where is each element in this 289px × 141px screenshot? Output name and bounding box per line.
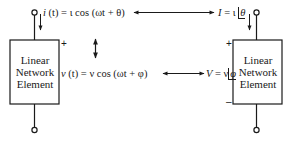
left-top-terminal-icon [32,10,37,15]
phasor-current-magnitude: = ι [222,7,239,18]
phasor-voltage-magnitude: = ν [212,68,228,79]
right-bottom-terminal-icon [254,127,259,132]
phasor-voltage-equation: V = νφ [206,68,236,80]
right-label-line1: Linear [233,54,283,66]
time-domain-voltage-equation: v (t) = ν cos (ωt + φ) [61,68,147,80]
left-plus-sign: + [61,39,67,49]
phasor-current-equation: I = ι θ [218,7,245,19]
phasor-voltage-angle: φ [228,68,236,80]
right-element-label: Linear Network Element [233,54,283,90]
right-minus-sign: – [226,97,232,107]
left-element-label: Linear Network Element [10,54,60,90]
current-expression: (t) = ι cos (ωt + θ) [46,7,125,18]
right-plus-sign: + [226,39,232,49]
right-label-line2: Network [233,66,283,78]
left-label-line3: Element [10,78,60,90]
voltage-expression: (t) = ν cos (ωt + φ) [66,68,148,79]
phasor-current-angle: θ [238,7,245,19]
left-label-line1: Linear [10,54,60,66]
right-top-terminal-icon [254,10,259,15]
left-bottom-terminal-icon [32,127,37,132]
left-label-line2: Network [10,66,60,78]
right-label-line3: Element [233,78,283,90]
time-domain-current-equation: i (t) = ι cos (ωt + θ) [43,7,125,19]
